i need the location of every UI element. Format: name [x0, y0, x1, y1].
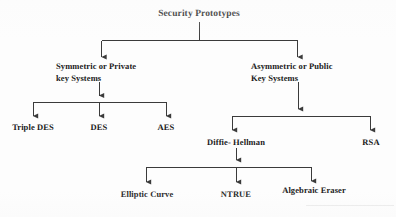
diagram-canvas: Security Prototypes Symmetric or Private… [0, 0, 396, 217]
node-des: DES [91, 122, 108, 133]
node-symmetric: Symmetric or Private key Systems [56, 61, 160, 84]
node-symmetric-line1: Symmetric or Private [56, 61, 136, 71]
node-diffie-hellman: Diffie- Hellman [207, 137, 265, 148]
node-algebraic-eraser: Algebraic Eraser [282, 185, 346, 196]
node-asymmetric-line2: Key Systems [251, 73, 298, 83]
node-aes: AES [158, 122, 175, 133]
node-ntrue: NTRUE [221, 189, 251, 200]
node-security-prototypes: Security Prototypes [158, 9, 240, 20]
scan-artifact-line [306, 205, 394, 206]
node-asymmetric-line1: Asymmetric or Public [251, 61, 333, 71]
node-triple-des: Triple DES [12, 122, 54, 133]
node-asymmetric: Asymmetric or Public Key Systems [251, 61, 357, 84]
node-symmetric-line2: key Systems [56, 73, 101, 83]
node-rsa: RSA [362, 137, 379, 148]
node-elliptic-curve: Elliptic Curve [121, 189, 174, 200]
